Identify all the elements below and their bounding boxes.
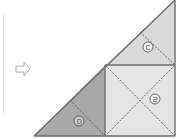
triangle-diagram: ㄷ ㄹ ㅁ: [0, 0, 176, 139]
label-left-triangle: ㅁ: [74, 116, 84, 126]
svg-text:ㄷ: ㄷ: [145, 44, 151, 52]
label-square: ㄹ: [150, 94, 160, 104]
svg-text:ㄹ: ㄹ: [152, 96, 158, 104]
svg-text:ㅁ: ㅁ: [76, 118, 82, 126]
right-hollow-arrow-icon: [16, 62, 30, 76]
label-top-triangle: ㄷ: [143, 42, 153, 52]
